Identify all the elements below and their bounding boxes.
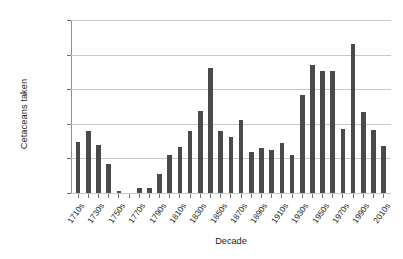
bar-slot [144,20,154,193]
bar [259,148,264,193]
x-tick-slot [104,194,114,198]
bar-slot [114,20,124,193]
bar [310,65,315,193]
x-tick-mark [332,194,333,198]
bar-slot [297,20,307,193]
bar [290,155,295,193]
x-tick-slot [226,194,236,198]
bar-slot [368,20,378,193]
x-tick-mark [230,194,231,198]
bar [300,95,305,193]
bar [76,142,81,193]
bar [96,145,101,193]
bar-slot [124,20,134,193]
bar [351,44,356,193]
bar-slot [267,20,277,193]
x-tick-slot [205,194,215,198]
bar [208,68,213,193]
bar-slot [226,20,236,193]
x-tick-mark [271,194,272,198]
x-tick-mark [251,194,252,198]
x-tick-slot [155,194,165,198]
x-tick-mark [241,194,242,198]
bar-slot [338,20,348,193]
x-tick-mark [281,194,282,198]
x-tick-slot [114,194,124,198]
bar-chart: Cetaceans taken 05,00010,00015,00020,000… [0,0,403,259]
x-tick-slot [277,194,287,198]
bar [137,188,142,193]
bar [371,130,376,193]
x-tick-mark [98,194,99,198]
bar [229,137,234,193]
bar [381,146,386,193]
bar-slot [155,20,165,193]
bar-slot [256,20,266,193]
bar-slot [93,20,103,193]
x-axis-title: Decade [71,236,391,246]
x-tick-slot [267,194,277,198]
x-tick-slot [246,194,256,198]
x-tick-slot [287,194,297,198]
x-tick-slot [236,194,246,198]
bar [269,150,274,193]
x-tick-slot [338,194,348,198]
bar-slot [287,20,297,193]
x-tick-mark [118,194,119,198]
x-tick-mark [210,194,211,198]
bar-slot [307,20,317,193]
bar-slot [277,20,287,193]
x-tick-slot [124,194,134,198]
bar-slot [246,20,256,193]
bar [341,129,346,193]
x-tick-mark [261,194,262,198]
x-tick-mark [353,194,354,198]
bar-slot [379,20,389,193]
bar [188,131,193,193]
x-tick-slot [297,194,307,198]
bar [178,147,183,193]
x-tick-slot [368,194,378,198]
x-tick-mark [322,194,323,198]
x-tick-slot [379,194,389,198]
bar [239,120,244,193]
x-tick-mark [292,194,293,198]
x-tick-mark [190,194,191,198]
x-tick-mark [78,194,79,198]
x-tick-slot [165,194,175,198]
bar-slot [236,20,246,193]
x-tick-mark [179,194,180,198]
x-tick-mark [149,194,150,198]
x-tick-mark [383,194,384,198]
x-tick-slot [318,194,328,198]
x-tick-mark [159,194,160,198]
bar [117,191,122,193]
bar [198,111,203,193]
x-tick-slot [328,194,338,198]
x-tick-slot [358,194,368,198]
x-tick-slot [195,194,205,198]
x-tick-slot [307,194,317,198]
bar [157,174,162,193]
x-tick-mark [302,194,303,198]
x-tick-slot [256,194,266,198]
bar-slot [358,20,368,193]
bar-slot [348,20,358,193]
x-tick-slot [93,194,103,198]
x-tick-mark [312,194,313,198]
x-tick-mark [139,194,140,198]
x-tick-slot [134,194,144,198]
bar [330,71,335,193]
bar [147,188,152,193]
bar-slot [185,20,195,193]
x-tick-mark [220,194,221,198]
bar [361,112,366,193]
bar-slot [175,20,185,193]
bar-slot [83,20,93,193]
bar-slot [328,20,338,193]
bar [320,71,325,193]
bar [249,152,254,193]
x-tick-mark [363,194,364,198]
x-tick-slot [144,194,154,198]
bar-slot [318,20,328,193]
